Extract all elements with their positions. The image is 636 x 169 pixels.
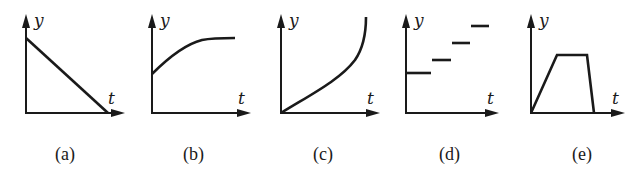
- y-axis-label: y: [159, 10, 170, 30]
- graph-curve: [281, 17, 366, 113]
- step-segments: [406, 26, 489, 73]
- y-axis: y: [277, 10, 299, 113]
- panel-b: y t (b): [148, 10, 251, 165]
- t-axis: t: [280, 88, 380, 117]
- y-axis-label: y: [413, 10, 424, 30]
- y-axis-arrow-icon: [148, 14, 156, 28]
- panel-e: y t (e): [527, 10, 625, 165]
- panel-label: (b): [183, 144, 204, 165]
- t-axis: t: [25, 88, 125, 117]
- t-axis-label: t: [487, 88, 494, 108]
- panel-label: (e): [572, 144, 592, 165]
- t-axis: t: [530, 88, 625, 117]
- panel-c: y t (c): [277, 10, 380, 165]
- t-axis-label: t: [367, 88, 374, 108]
- y-axis-label: y: [538, 10, 549, 30]
- t-axis-arrow-icon: [485, 109, 499, 117]
- y-axis-arrow-icon: [22, 14, 30, 28]
- t-axis-arrow-icon: [611, 109, 625, 117]
- graph-trapezoid: [531, 55, 594, 113]
- y-axis: y: [402, 10, 424, 113]
- t-axis-arrow-icon: [366, 109, 380, 117]
- panel-d: y t (d): [402, 10, 499, 165]
- y-axis: y: [22, 10, 44, 113]
- graph-curve: [152, 38, 235, 74]
- panel-label: (a): [55, 144, 75, 165]
- t-axis-arrow-icon: [237, 109, 251, 117]
- t-axis: t: [151, 88, 251, 117]
- y-axis-label: y: [288, 10, 299, 30]
- t-axis-label: t: [108, 88, 115, 108]
- graph-line: [26, 38, 108, 113]
- t-axis-label: t: [238, 88, 245, 108]
- t-axis: t: [405, 88, 499, 117]
- y-axis-arrow-icon: [527, 14, 535, 28]
- y-axis-arrow-icon: [402, 14, 410, 28]
- y-axis-label: y: [33, 10, 44, 30]
- t-axis-arrow-icon: [111, 109, 125, 117]
- t-axis-label: t: [612, 88, 619, 108]
- panel-a: y t (a): [22, 10, 125, 165]
- panel-label: (c): [313, 144, 333, 165]
- panel-label: (d): [439, 144, 460, 165]
- motion-graphs-figure: y t (a) y t (b): [0, 0, 636, 169]
- y-axis-arrow-icon: [277, 14, 285, 28]
